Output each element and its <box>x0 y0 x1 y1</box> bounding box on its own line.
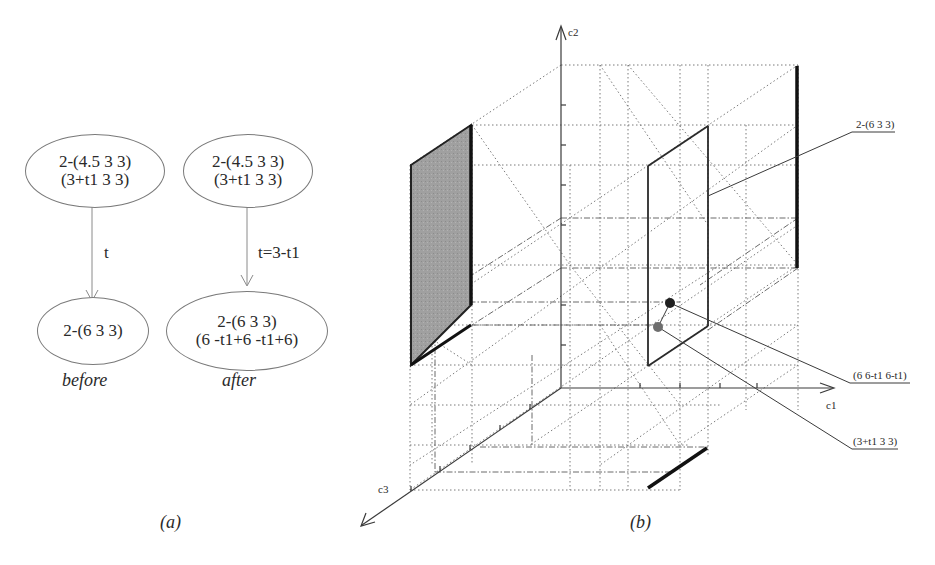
after-top-node: 2-(4.5 3 3) (3+t1 3 3) <box>183 134 313 208</box>
before-top-node: 2-(4.5 3 3) (3+t1 3 3) <box>25 134 165 208</box>
after-label: after <box>222 370 256 391</box>
panel-b: c2 c1 c3 2-(6 3 3) (6 6-t1 6-t1) (3+t1 3… <box>340 0 935 565</box>
after-bottom-line2: (6 -t1+6 -t1+6) <box>196 331 298 349</box>
panel-a-edges <box>0 0 340 565</box>
axis-c2-label: c2 <box>568 26 578 38</box>
cube-diagram: c2 c1 c3 2-(6 3 3) (6 6-t1 6-t1) (3+t1 3… <box>340 0 935 565</box>
caption-b: (b) <box>630 512 651 533</box>
grid-dashdot <box>435 218 798 472</box>
after-top-line2: (3+t1 3 3) <box>214 171 282 189</box>
axis-c1-label: c1 <box>826 399 836 411</box>
after-bottom-line1: 2-(6 3 3) <box>217 313 276 331</box>
before-bottom-line1: 2-(6 3 3) <box>63 322 122 340</box>
panel-a: 2-(4.5 3 3) (3+t1 3 3) t 2-(6 3 3) befor… <box>0 0 340 565</box>
arrow-before <box>86 207 98 301</box>
before-bottom-node: 2-(6 3 3) <box>37 297 149 365</box>
after-edge-label: t=3-t1 <box>258 243 300 263</box>
before-top-line1: 2-(4.5 3 3) <box>59 153 131 171</box>
point-light <box>653 322 663 332</box>
axis-c3 <box>362 388 561 525</box>
caption-a: (a) <box>160 512 181 533</box>
leader-plane <box>708 132 895 196</box>
axis-c3-label: c3 <box>378 483 389 495</box>
before-top-line2: (3+t1 3 3) <box>61 171 129 189</box>
before-label: before <box>62 370 107 391</box>
after-bottom-node: 2-(6 3 3) (6 -t1+6 -t1+6) <box>166 291 328 371</box>
before-edge-label: t <box>104 243 109 263</box>
shaded-face <box>411 125 471 365</box>
arrow-after <box>241 207 253 286</box>
after-top-line1: 2-(4.5 3 3) <box>212 153 284 171</box>
thick-edge-bottom <box>648 448 707 488</box>
leader-lines <box>658 132 910 449</box>
point-dark-label: (6 6-t1 6-t1) <box>853 369 907 382</box>
point-light-label: (3+t1 3 3) <box>853 435 897 448</box>
point-dark <box>665 298 675 308</box>
plane-label: 2-(6 3 3) <box>856 118 895 131</box>
